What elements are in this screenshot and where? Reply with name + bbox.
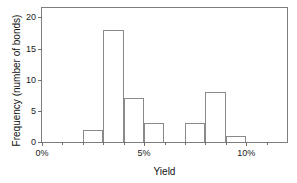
x-axis-tick: [246, 142, 247, 146]
y-axis-tick: [38, 111, 42, 112]
y-axis-title: Frequency (number of bonds): [11, 11, 22, 151]
histogram-bar: [205, 92, 225, 142]
x-axis-minor-tick: [103, 142, 104, 145]
x-axis-minor-tick: [83, 142, 84, 145]
plot-frame: 051015200%5%10%: [41, 7, 288, 143]
histogram-bar: [103, 30, 123, 142]
x-axis-minor-tick: [267, 142, 268, 145]
x-axis-minor-tick: [165, 142, 166, 145]
y-axis-tick-label: 20: [26, 13, 36, 22]
histogram-bar: [185, 123, 205, 142]
histogram-bar: [226, 136, 246, 142]
x-axis-minor-tick: [205, 142, 206, 145]
x-axis-tick-label: 10%: [237, 148, 255, 158]
histogram-bar: [124, 98, 144, 142]
x-axis-minor-tick: [226, 142, 227, 145]
y-axis-tick-label: 0: [31, 138, 36, 147]
x-axis-minor-tick: [185, 142, 186, 145]
x-axis-tick-label: 5%: [138, 148, 151, 158]
y-axis-tick-label: 15: [26, 44, 36, 53]
y-axis-tick-label: 5: [31, 106, 36, 115]
histogram-bar: [83, 130, 103, 142]
x-axis-minor-tick: [124, 142, 125, 145]
y-axis-tick: [38, 80, 42, 81]
y-axis-tick-label: 10: [26, 75, 36, 84]
y-axis-tick: [38, 17, 42, 18]
x-axis-title: Yield: [41, 166, 288, 177]
y-axis-tick: [38, 49, 42, 50]
x-axis-tick: [144, 142, 145, 146]
histogram-chart: 051015200%5%10% Yield Frequency (number …: [0, 0, 297, 183]
x-axis-tick-label: 0%: [35, 148, 48, 158]
x-axis-tick: [42, 142, 43, 146]
plot-area: [42, 8, 287, 142]
histogram-bar: [144, 123, 164, 142]
x-axis-minor-tick: [62, 142, 63, 145]
